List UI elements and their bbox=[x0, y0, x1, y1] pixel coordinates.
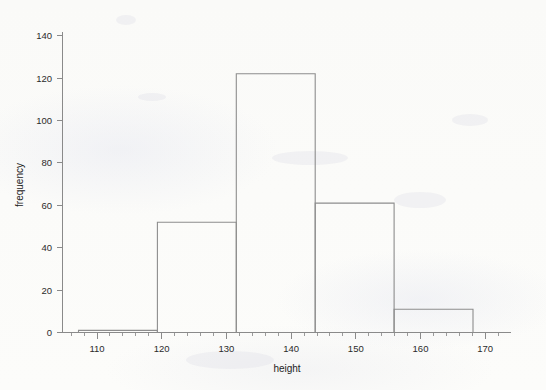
histogram-bar-4 bbox=[315, 203, 394, 332]
x-axis-title: height bbox=[273, 363, 300, 374]
x-tick-label-150: 150 bbox=[348, 343, 364, 354]
x-axis-major-ticks bbox=[97, 333, 485, 340]
y-tick-label-20: 20 bbox=[41, 285, 52, 296]
histogram-figure: 0 20 40 60 80 100 120 140 frequency bbox=[0, 0, 546, 390]
x-tick-label-130: 130 bbox=[218, 343, 234, 354]
x-axis-minor-ticks bbox=[71, 333, 498, 339]
x-tick-label-120: 120 bbox=[154, 343, 170, 354]
histogram-bar-5 bbox=[394, 309, 473, 332]
y-tick-label-80: 80 bbox=[41, 157, 52, 168]
y-tick-label-60: 60 bbox=[41, 200, 52, 211]
y-axis-major-ticks bbox=[57, 36, 63, 333]
y-axis: 0 20 40 60 80 100 120 140 frequency bbox=[14, 30, 63, 338]
y-tick-label-120: 120 bbox=[36, 73, 52, 84]
y-tick-label-100: 100 bbox=[36, 115, 52, 126]
x-tick-label-170: 170 bbox=[477, 343, 493, 354]
histogram-canvas: 0 20 40 60 80 100 120 140 frequency bbox=[0, 0, 546, 390]
y-tick-label-0: 0 bbox=[47, 327, 52, 338]
histogram-bar-2 bbox=[157, 222, 236, 332]
x-axis: 110 120 130 140 150 160 170 height bbox=[63, 333, 512, 375]
x-tick-label-160: 160 bbox=[413, 343, 429, 354]
x-axis-tick-labels: 110 120 130 140 150 160 170 bbox=[89, 343, 493, 354]
y-tick-label-140: 140 bbox=[36, 30, 52, 41]
y-tick-label-40: 40 bbox=[41, 242, 52, 253]
y-axis-title: frequency bbox=[14, 163, 25, 207]
x-tick-label-140: 140 bbox=[283, 343, 299, 354]
histogram-bar-3 bbox=[236, 74, 315, 333]
scan-artifacts bbox=[116, 15, 488, 369]
x-tick-label-110: 110 bbox=[89, 343, 104, 354]
y-axis-tick-labels: 0 20 40 60 80 100 120 140 bbox=[36, 30, 52, 338]
